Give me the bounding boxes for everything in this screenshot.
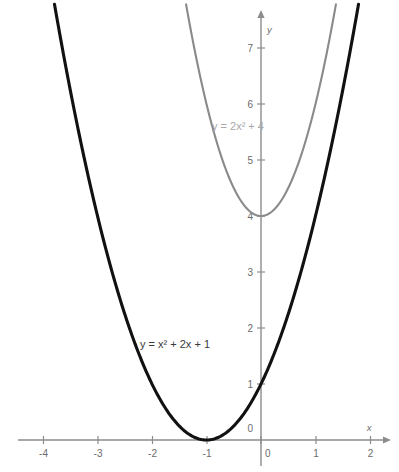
y-tick-label: 1 bbox=[247, 379, 253, 390]
y-tick-label: 7 bbox=[247, 43, 253, 54]
y-tick-label: 5 bbox=[247, 155, 253, 166]
quadratic-functions-chart: -4 -3 -2 -1 0 1 2 0 1 2 3 4 5 6 7 bbox=[0, 0, 399, 472]
curve-label-primary: y = x² + 2x + 1 bbox=[140, 338, 210, 350]
x-tick-label: -4 bbox=[39, 448, 48, 459]
curve-y-equals-x-squared-plus-2x-plus-1 bbox=[54, 4, 358, 440]
y-tick-label: 6 bbox=[247, 99, 253, 110]
y-tick-label-origin: 0 bbox=[247, 423, 253, 434]
x-tick-label: -3 bbox=[94, 448, 103, 459]
curve-label-secondary: y = 2x² + 4 bbox=[212, 120, 264, 132]
y-tick-label: 2 bbox=[247, 323, 253, 334]
y-axis bbox=[257, 10, 264, 466]
x-tick-label-origin: 0 bbox=[265, 448, 271, 459]
plot-canvas: -4 -3 -2 -1 0 1 2 0 1 2 3 4 5 6 7 bbox=[0, 0, 399, 472]
x-axis-arrowhead bbox=[383, 436, 391, 443]
x-tick-label: -2 bbox=[148, 448, 157, 459]
y-tick-label: 3 bbox=[247, 267, 253, 278]
x-tick-label: 1 bbox=[313, 448, 319, 459]
x-tick-label: 2 bbox=[368, 448, 374, 459]
x-tick-label: -1 bbox=[203, 448, 212, 459]
y-axis-arrowhead bbox=[257, 10, 264, 18]
y-axis-label: y bbox=[266, 24, 273, 35]
y-axis-tick-labels: 0 1 2 3 4 5 6 7 bbox=[247, 43, 253, 434]
x-axis-label: x bbox=[366, 422, 373, 433]
x-axis-tick-labels: -4 -3 -2 -1 0 1 2 bbox=[39, 448, 374, 459]
